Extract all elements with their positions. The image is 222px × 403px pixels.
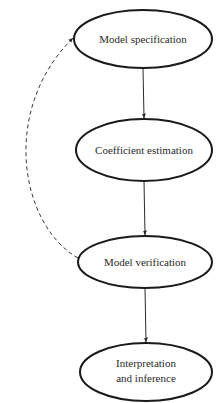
edge-verification-to-interpretation xyxy=(145,288,146,342)
edge-estimation-to-verification xyxy=(144,181,145,235)
node-model-verification: Model verification xyxy=(78,236,212,288)
edge-specification-to-estimation xyxy=(143,68,144,118)
edge-feedback-verification-to-specification xyxy=(26,38,78,258)
flowchart-diagram: Model specification Coefficient estimati… xyxy=(0,0,222,403)
node-label: Coefficient estimation xyxy=(95,144,193,156)
node-coefficient-estimation: Coefficient estimation xyxy=(76,119,212,181)
node-model-specification: Model specification xyxy=(74,10,212,68)
node-label-line-2: and inference xyxy=(116,372,176,384)
node-interpretation-and-inference: Interpretation and inference xyxy=(80,343,212,401)
node-label: Model specification xyxy=(99,33,187,45)
node-label: Model verification xyxy=(104,256,187,268)
node-label-line-1: Interpretation xyxy=(116,357,176,369)
